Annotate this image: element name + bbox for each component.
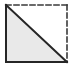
triangle-diagram [0, 0, 76, 68]
figure-canvas [0, 0, 76, 68]
